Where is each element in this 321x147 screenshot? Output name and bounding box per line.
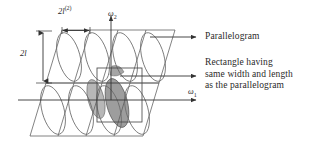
- dimension-height: [36, 31, 52, 83]
- shaded-ellipse-secondary: [83, 78, 108, 121]
- callout-rectangle-line1: Rectangle having: [205, 57, 293, 69]
- dimension-width-superscript: (2): [65, 5, 72, 11]
- omega1-subscript: 1: [194, 92, 197, 98]
- omega2-subscript: 2: [114, 14, 117, 20]
- dimension-height-var: l: [24, 48, 26, 58]
- callout-parallelogram-text: Parallelogram: [205, 31, 260, 41]
- dimension-height-label: 2l: [20, 48, 27, 58]
- dimension-width-label: 2l(2): [58, 5, 72, 16]
- callout-parallelogram: Parallelogram: [205, 31, 260, 43]
- axis-omega2-label: ω2: [108, 9, 117, 20]
- callout-rectangle-line2: same width and length: [205, 69, 293, 81]
- callout-rectangle: Rectangle having same width and length a…: [205, 57, 293, 92]
- axis-omega1-label: ω1: [188, 87, 197, 98]
- callout-rectangle-line3: as the parallelogram: [205, 80, 293, 92]
